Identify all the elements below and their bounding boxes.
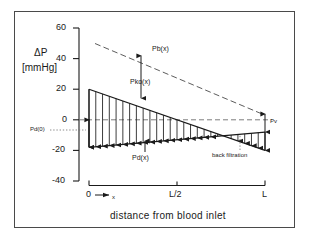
annotation-pko: Pko(x) [130, 78, 150, 85]
ytick-label-20: 20 [56, 84, 66, 93]
figure-container: x --> [0, 0, 311, 238]
y-axis-title-line2: [mmHg] [22, 63, 57, 73]
ytick-label-40: 40 [56, 54, 66, 63]
chart-canvas: x --> [0, 0, 311, 238]
ytick-label-neg40: -40 [52, 176, 65, 185]
xtick-label-half: L/2 [169, 190, 182, 199]
ytick-label-60: 60 [56, 23, 66, 32]
ytick-label-0: 0 [62, 115, 67, 124]
ytick-label-neg20: -20 [52, 145, 65, 154]
y-axis [73, 28, 79, 181]
y-axis-title-line1: ΔP [34, 48, 47, 58]
xtick-label-L: L [262, 190, 267, 199]
annotation-pd0: Pd(0) [30, 126, 45, 132]
annotation-pdx: Pd(x) [132, 154, 149, 161]
annotation-back-filtration: back filtration [212, 152, 247, 158]
x-axis [89, 181, 265, 186]
x-axis-title: distance from blood inlet [110, 211, 226, 221]
x-variable-label: x [112, 194, 115, 200]
annotation-pv: Pv [270, 118, 277, 124]
series-pb-line [95, 44, 265, 116]
annotation-pb: Pb(x) [152, 45, 169, 52]
xtick-label-0: 0 [86, 190, 91, 199]
